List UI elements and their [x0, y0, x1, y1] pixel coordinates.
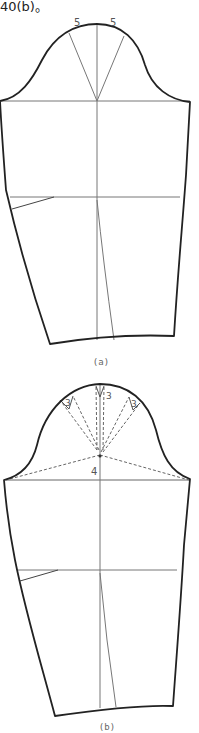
dart-label-left-b: 3	[65, 398, 71, 408]
forward-seam-b	[100, 573, 116, 707]
dashed-radials-b	[6, 386, 189, 480]
elbow-dart-b	[20, 570, 58, 581]
forward-seam-a	[97, 200, 114, 340]
pivot-point-b	[98, 454, 101, 457]
sleeve-outline-a	[0, 24, 190, 344]
cap-label-left-a: 5	[74, 17, 80, 28]
cap-radial-right-a	[97, 36, 124, 101]
elbow-dart-a	[12, 197, 54, 209]
sleeve-diagram: 5 5 (a) 3 3 3	[0, 0, 199, 733]
height-label-b: 4	[91, 466, 97, 477]
figure-caption-a: (a)	[93, 357, 109, 367]
cap-radial-left-a	[69, 33, 97, 101]
dart-label-center-b: 3	[106, 391, 112, 401]
dart-label-right-b: 3	[131, 399, 137, 409]
cap-label-right-a: 5	[110, 17, 116, 28]
sleeve-pattern-a: 5 5 (a)	[0, 17, 190, 367]
sleeve-pattern-b: 3 3 3 4 (b)	[4, 384, 190, 732]
figure-caption-b: (b)	[99, 722, 115, 732]
